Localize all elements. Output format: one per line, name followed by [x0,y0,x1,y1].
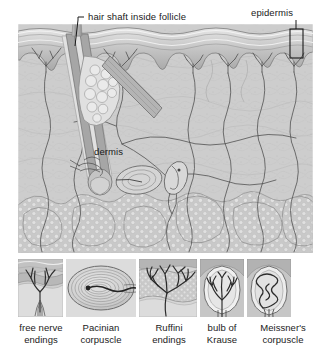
label-hair-shaft-inside-follicle: hair shaft inside follicle [88,11,186,22]
caption-line-1: bulb of [196,322,248,334]
skin-receptors-figure [0,0,325,357]
receptor-panel-ruffini-endings [139,259,197,317]
skin-cross-section-diagram [18,4,313,253]
caption-line-1: free nerve [8,322,74,334]
caption-line-1: Pacinian [67,322,135,334]
receptor-panel-meissners-corpuscle [247,259,291,317]
caption-free-nerve-endings: free nerve endings [8,322,74,346]
caption-line-2: corpuscle [67,334,135,346]
caption-ruffini-endings: Ruffini endings [139,322,199,346]
receptor-panel-free-nerve-endings [18,259,63,317]
caption-pacinian-corpuscle: Pacinian corpuscle [67,322,135,346]
label-epidermis: epidermis [251,7,293,18]
caption-line-2: endings [139,334,199,346]
caption-line-2: endings [8,334,74,346]
receptor-panel-bulb-of-krause [200,259,244,317]
caption-meissners-corpuscle: Meissner's corpuscle [246,322,320,346]
caption-line-2: Krause [196,334,248,346]
caption-line-1: Meissner's [246,322,320,334]
caption-line-2: corpuscle [246,334,320,346]
label-dermis: dermis [94,146,123,157]
caption-bulb-of-krause: bulb of Krause [196,322,248,346]
caption-line-1: Ruffini [139,322,199,334]
receptor-panel-pacinian-corpuscle [66,259,136,317]
